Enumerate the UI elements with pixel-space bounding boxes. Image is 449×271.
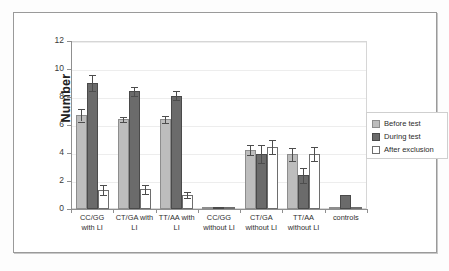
bar[interactable] (87, 83, 98, 209)
legend-swatch-after-exclusion (372, 146, 380, 154)
error-bar (272, 140, 273, 154)
bar[interactable] (76, 115, 87, 209)
bar-slot (287, 41, 298, 209)
x-tick-label: CC/GGwithout LI (198, 213, 240, 232)
error-bar-cap (184, 192, 191, 193)
x-tick-label: CT/GAwithout LI (240, 213, 282, 232)
error-bar-cap (300, 168, 307, 169)
error-bar (81, 109, 82, 122)
x-tick-label: CC/GGwith LI (71, 213, 113, 232)
x-tick-label: controls (325, 213, 367, 223)
bar[interactable] (329, 207, 340, 209)
bar[interactable] (287, 154, 298, 209)
error-bar-cap (100, 195, 107, 196)
x-tick-mark (367, 209, 368, 213)
bar-slot (224, 41, 235, 209)
bar[interactable] (202, 207, 213, 209)
error-bar-cap (142, 194, 149, 195)
error-bar (165, 116, 166, 123)
bar-slot (351, 41, 362, 209)
bar[interactable] (129, 91, 140, 209)
bar[interactable] (171, 96, 182, 209)
bar[interactable] (340, 195, 351, 209)
error-bar-cap (300, 183, 307, 184)
bar-slot (140, 41, 151, 209)
x-tick-label-line: with LI (71, 223, 113, 233)
bar-group (325, 41, 367, 209)
x-tick-label-line: LI (156, 223, 198, 233)
y-tick-label: 4 (42, 147, 64, 157)
legend-item-during-test: During test (372, 130, 443, 143)
x-tick-label-line: controls (325, 213, 367, 223)
bar-slot (202, 41, 213, 209)
legend-label-after-exclusion: After exclusion (384, 145, 434, 154)
x-tick-label-line: TT/AA with (156, 213, 198, 223)
x-tick-label-line: without LI (198, 223, 240, 233)
error-bar-cap (258, 163, 265, 164)
error-bar-cap (258, 145, 265, 146)
x-tick-label-line: TT/AA (282, 213, 324, 223)
x-tick-label: TT/AAwithout LI (282, 213, 324, 232)
error-bar-cap (289, 148, 296, 149)
y-tick-label: 8 (42, 91, 64, 101)
y-tick-label: 12 (42, 35, 64, 45)
bar-group (156, 41, 198, 209)
bar-slot (245, 41, 256, 209)
x-tick-label-line: LI (113, 223, 155, 233)
bar[interactable] (160, 119, 171, 209)
error-bar-cap (120, 117, 127, 118)
error-bar (92, 75, 93, 92)
chart-legend: Before test During test After exclusion (366, 112, 448, 159)
error-bar (103, 185, 104, 195)
bar[interactable] (118, 119, 129, 209)
bar-slot (329, 41, 340, 209)
error-bar-cap (100, 185, 107, 186)
y-tick-label: 10 (42, 63, 64, 73)
x-tick-label-line: CT/GA (240, 213, 282, 223)
bar-slot (98, 41, 109, 209)
bar-slot (118, 41, 129, 209)
error-bar (261, 145, 262, 163)
legend-label-before-test: Before test (384, 119, 421, 128)
bar-group (240, 41, 282, 209)
bar[interactable] (224, 207, 235, 209)
error-bar-cap (173, 91, 180, 92)
bar-group (113, 41, 155, 209)
error-bar-cap (89, 91, 96, 92)
error-bar (303, 168, 304, 183)
error-bar-cap (120, 122, 127, 123)
error-bar (292, 148, 293, 161)
x-tick-label-line: without LI (282, 223, 324, 233)
bar-slot (76, 41, 87, 209)
bar[interactable] (267, 147, 278, 209)
x-tick-label-line: CC/GG (198, 213, 240, 223)
error-bar-cap (311, 161, 318, 162)
x-tick-label: CT/GA withLI (113, 213, 155, 232)
error-bar (134, 87, 135, 97)
legend-swatch-during-test (372, 133, 380, 141)
error-bar-cap (247, 145, 254, 146)
x-tick-label: TT/AA withLI (156, 213, 198, 232)
error-bar-cap (78, 109, 85, 110)
error-bar-cap (142, 185, 149, 186)
bar-slot (213, 41, 224, 209)
error-bar-cap (89, 75, 96, 76)
legend-label-during-test: During test (384, 132, 421, 141)
x-tick-label-line: CC/GG (71, 213, 113, 223)
error-bar-cap (162, 116, 169, 117)
error-bar-cap (184, 198, 191, 199)
error-bar-cap (131, 87, 138, 88)
bar[interactable] (351, 207, 362, 209)
bar[interactable] (245, 150, 256, 209)
bar-slot (309, 41, 320, 209)
bar[interactable] (309, 154, 320, 209)
error-bar-cap (162, 123, 169, 124)
bar[interactable] (213, 207, 224, 209)
x-tick-label-line: without LI (240, 223, 282, 233)
x-tick-label-line: CT/GA with (113, 213, 155, 223)
legend-swatch-before-test (372, 120, 380, 128)
bar-slot (267, 41, 278, 209)
chart-figure: Number 024681012 CC/GGwith LICT/GA withL… (0, 0, 449, 271)
error-bar-cap (289, 161, 296, 162)
chart-frame: Number 024681012 CC/GGwith LICT/GA withL… (13, 12, 437, 253)
